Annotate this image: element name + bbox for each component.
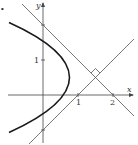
tangent-line-2	[29, 39, 134, 144]
x-tick-label-1: 1	[76, 98, 81, 107]
x-axis-label: x	[127, 85, 132, 94]
y-axis-label: y	[35, 1, 41, 10]
parabola-diagram: • x y 1 2 1	[0, 0, 138, 145]
right-angle-marker	[91, 69, 100, 74]
x-tick-label-2: 2	[110, 98, 115, 107]
y-axis-arrow-icon	[41, 2, 45, 7]
y-tick-label-1: 1	[34, 56, 39, 65]
bullet-marker: •	[0, 5, 5, 14]
parabola-curve	[9, 23, 70, 133]
